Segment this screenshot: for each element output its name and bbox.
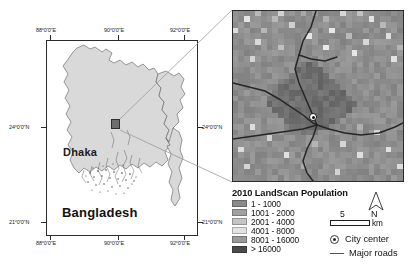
scale-bar-unit: km (372, 219, 383, 228)
legend-class-label: > 16000 (251, 244, 281, 254)
legend-swatch (232, 200, 247, 207)
dhaka-landscan-raster-inset (232, 10, 404, 182)
legend-swatch (232, 218, 247, 225)
tick-mark (184, 236, 185, 240)
tick-mark (198, 222, 203, 223)
scale-bar-value: 5 (340, 209, 345, 219)
legend-major-roads-row: Major roads (330, 248, 398, 258)
lon-tick-top-90: 90°0'0"E (104, 27, 124, 33)
lon-tick-top-92: 92°0'0"E (170, 27, 190, 33)
city-center-icon (330, 235, 339, 244)
lon-tick-bottom-88: 88°0'0"E (36, 240, 56, 246)
scale-bar (330, 220, 370, 226)
tick-mark (118, 236, 119, 240)
lon-tick-top-88: 88°0'0"E (36, 27, 56, 33)
tick-mark (50, 236, 51, 240)
road-line-icon (330, 253, 344, 254)
legend-swatch (232, 236, 247, 243)
lon-tick-bottom-92: 92°0'0"E (170, 240, 190, 246)
legend-major-roads-label: Major roads (349, 248, 398, 258)
lat-tick-left-21: 21°0'0"N (9, 219, 29, 225)
bangladesh-label: Bangladesh (62, 205, 138, 220)
dhaka-label: Dhaka (63, 146, 97, 158)
legend-city-center-label: City center (345, 234, 389, 244)
dhaka-extent-box (111, 119, 120, 129)
bangladesh-overview-map: 88°0'0"E 90°0'0"E 92°0'0"E 88°0'0"E 90°0… (0, 0, 228, 270)
north-arrow-icon (366, 191, 386, 211)
legend-city-center-row: City center (330, 234, 389, 244)
north-arrow-label: N (371, 209, 378, 219)
legend-swatch (232, 227, 247, 234)
map-figure: 88°0'0"E 90°0'0"E 92°0'0"E 88°0'0"E 90°0… (0, 0, 410, 270)
legend-swatch (232, 209, 247, 216)
major-roads-layer (233, 11, 403, 181)
lon-tick-bottom-90: 90°0'0"E (104, 240, 124, 246)
lat-tick-right-21: 21°0'0"N (202, 219, 222, 225)
lat-tick-left-24: 24°0'0"N (9, 124, 29, 130)
city-center-dot (309, 113, 317, 121)
lat-tick-right-24: 24°0'0"N (202, 124, 222, 130)
tick-mark (198, 127, 203, 128)
legend-swatch (232, 246, 247, 253)
